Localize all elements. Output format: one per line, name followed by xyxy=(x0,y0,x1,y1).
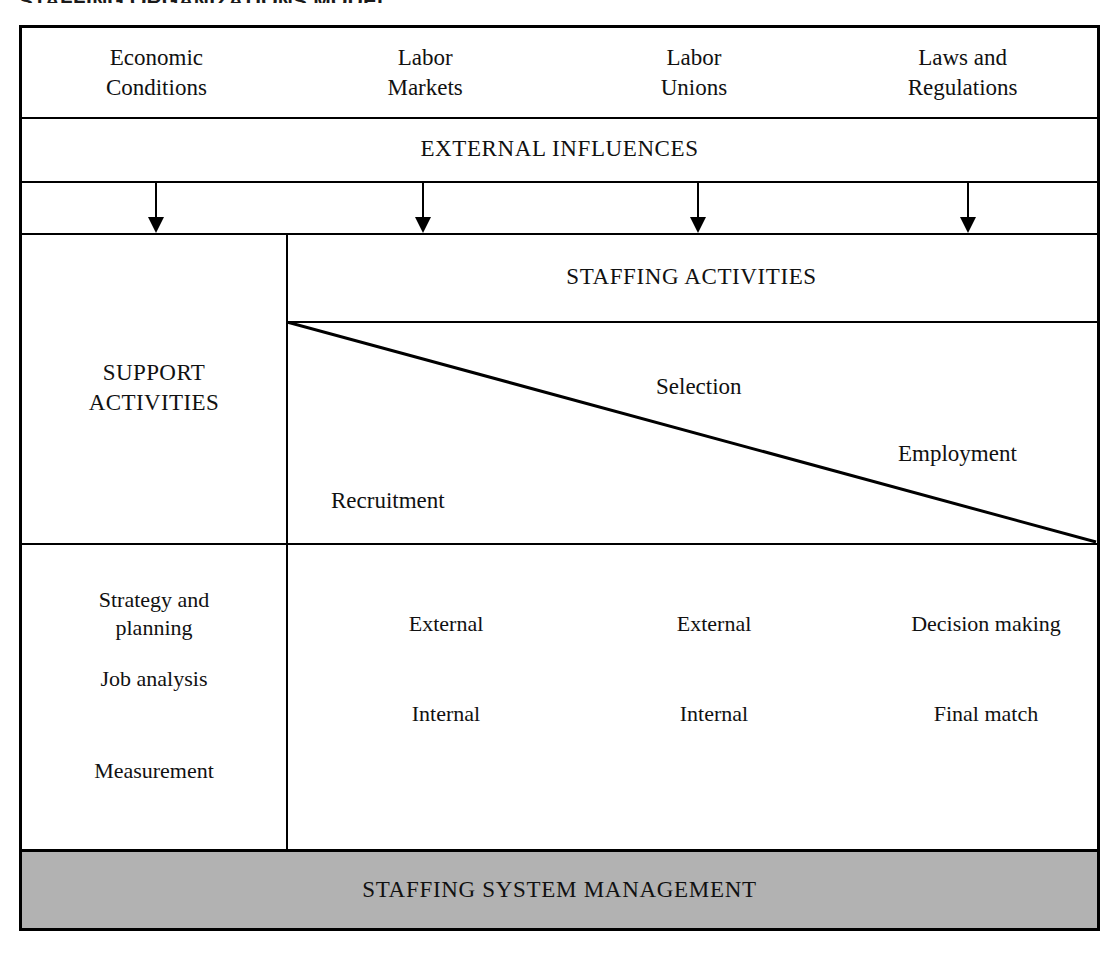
external-factor-line1: Laws and xyxy=(918,43,1007,73)
arrow-head xyxy=(415,217,431,233)
staffing-activities-label: STAFFING ACTIVITIES xyxy=(566,264,816,290)
external-influences-label: EXTERNAL INFLUENCES xyxy=(420,136,698,162)
arrow-head xyxy=(960,217,976,233)
staffing-activity-grid: External External Decision making Intern… xyxy=(286,543,1097,849)
staffing-phase-selection: Selection xyxy=(656,374,742,400)
external-factor-economic-conditions: Economic Conditions xyxy=(22,28,291,117)
staffing-phase-employment: Employment xyxy=(898,441,1017,467)
external-factor-line1: Labor xyxy=(398,43,453,73)
external-factor-labor-markets: Labor Markets xyxy=(291,28,560,117)
model-outer-frame: Economic Conditions Labor Markets Labor … xyxy=(19,25,1100,931)
external-factor-line2: Conditions xyxy=(106,73,207,103)
support-item-job-analysis: Job analysis xyxy=(22,665,286,693)
staffing-activities-band: STAFFING ACTIVITIES xyxy=(286,233,1097,321)
support-item-strategy-and-planning: Strategy and planning xyxy=(22,586,286,642)
lower-block: Strategy and planning Job analysis Measu… xyxy=(22,543,1097,849)
support-activities-heading-line1: SUPPORT xyxy=(89,358,219,388)
staffing-system-management-band: STAFFING SYSTEM MANAGEMENT xyxy=(22,849,1097,928)
staffing-phase-recruitment: Recruitment xyxy=(331,488,445,514)
support-item-line1: Strategy and xyxy=(22,586,286,614)
support-activities-heading: SUPPORT ACTIVITIES xyxy=(89,358,219,419)
divider-support-vs-staffing-lower xyxy=(286,543,288,849)
staffing-organizations-model-figure: STAFFING ORGANIZATIONS MODEL Economic Co… xyxy=(0,0,1115,965)
external-factors-row: Economic Conditions Labor Markets Labor … xyxy=(22,28,1097,117)
arrow-shaft xyxy=(967,181,969,219)
support-item-line1: Measurement xyxy=(22,757,286,785)
external-factor-labor-unions: Labor Unions xyxy=(560,28,829,117)
staffing-phases-triangle-area: Recruitment Selection Employment xyxy=(286,321,1097,543)
external-factor-laws-and-regulations: Laws and Regulations xyxy=(828,28,1097,117)
arrow-head xyxy=(690,217,706,233)
arrow-shaft xyxy=(422,181,424,219)
grid-employment-decision-making: Decision making xyxy=(911,611,1061,637)
grid-selection-internal: Internal xyxy=(680,701,748,727)
support-item-measurement: Measurement xyxy=(22,757,286,785)
support-activities-heading-line2: ACTIVITIES xyxy=(89,388,219,418)
support-activities-list: Strategy and planning Job analysis Measu… xyxy=(22,543,286,849)
staffing-activities-column: STAFFING ACTIVITIES Recruitment Selectio… xyxy=(286,233,1097,543)
arrow-head xyxy=(148,217,164,233)
support-activities-heading-cell: SUPPORT ACTIVITIES xyxy=(22,233,286,543)
divider-support-vs-staffing-middle xyxy=(286,233,288,543)
staffing-system-management-label: STAFFING SYSTEM MANAGEMENT xyxy=(362,877,757,903)
grid-employment-final-match: Final match xyxy=(934,701,1038,727)
influence-arrows-row xyxy=(22,181,1097,233)
external-factor-line1: Labor xyxy=(666,43,721,73)
external-factor-line1: Economic xyxy=(110,43,203,73)
external-factor-line2: Regulations xyxy=(908,73,1018,103)
grid-recruitment-internal: Internal xyxy=(412,701,480,727)
external-influences-band: EXTERNAL INFLUENCES xyxy=(22,117,1097,181)
arrow-shaft xyxy=(697,181,699,219)
external-factor-line2: Unions xyxy=(661,73,727,103)
support-item-line1: Job analysis xyxy=(22,665,286,693)
arrow-shaft xyxy=(155,181,157,219)
grid-selection-external: External xyxy=(677,611,752,637)
grid-recruitment-external: External xyxy=(409,611,484,637)
figure-title: STAFFING ORGANIZATIONS MODEL xyxy=(19,0,390,3)
middle-block: SUPPORT ACTIVITIES STAFFING ACTIVITIES R… xyxy=(22,233,1097,543)
external-factor-line2: Markets xyxy=(387,73,462,103)
support-item-line2: planning xyxy=(22,614,286,642)
